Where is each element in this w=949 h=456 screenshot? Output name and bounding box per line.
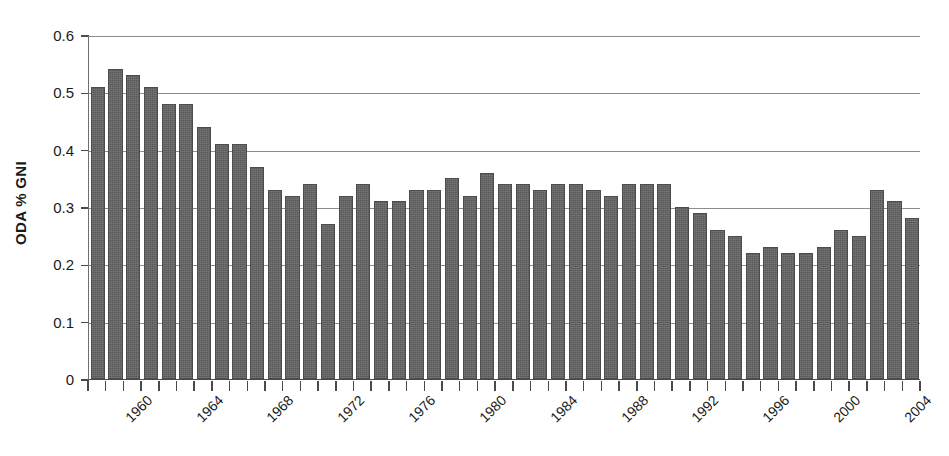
bar bbox=[622, 184, 636, 379]
bar bbox=[569, 184, 583, 379]
bar bbox=[746, 253, 760, 379]
bar bbox=[657, 184, 671, 379]
x-tick-mark bbox=[601, 381, 603, 391]
bar bbox=[339, 196, 353, 379]
bar bbox=[162, 104, 176, 379]
bar bbox=[799, 253, 813, 379]
x-tick-mark bbox=[353, 381, 355, 391]
bar bbox=[268, 190, 282, 379]
x-tick-label: 1960 bbox=[122, 392, 155, 425]
bar bbox=[604, 196, 618, 379]
bar bbox=[197, 127, 211, 379]
plot-area bbox=[88, 36, 920, 380]
bar bbox=[126, 75, 140, 379]
bar bbox=[905, 218, 919, 379]
bar bbox=[480, 173, 494, 379]
bar bbox=[693, 213, 707, 379]
x-tick-mark bbox=[583, 381, 585, 391]
x-tick-label: 1988 bbox=[618, 392, 651, 425]
x-tick-mark bbox=[902, 381, 904, 391]
x-tick-mark bbox=[477, 381, 479, 391]
x-tick-mark bbox=[300, 381, 302, 391]
x-tick-mark bbox=[247, 381, 249, 391]
bar bbox=[852, 236, 866, 379]
x-tick-label: 1964 bbox=[193, 392, 226, 425]
x-tick-mark bbox=[689, 381, 691, 391]
y-tick-label: 0 bbox=[14, 371, 74, 388]
bar bbox=[321, 224, 335, 379]
x-tick-mark bbox=[919, 381, 921, 391]
x-tick-mark bbox=[211, 381, 213, 391]
x-tick-label: 1976 bbox=[405, 392, 438, 425]
x-tick-label: 2000 bbox=[830, 392, 863, 425]
y-tick-label: 0.3 bbox=[14, 199, 74, 216]
x-tick-mark bbox=[725, 381, 727, 391]
x-tick-mark bbox=[795, 381, 797, 391]
bar bbox=[781, 253, 795, 379]
x-tick-label: 1996 bbox=[759, 392, 792, 425]
x-tick-mark bbox=[229, 381, 231, 391]
x-tick-mark bbox=[87, 381, 89, 391]
x-tick-mark bbox=[388, 381, 390, 391]
bar bbox=[870, 190, 884, 379]
x-tick-mark bbox=[459, 381, 461, 391]
x-tick-label: 1984 bbox=[547, 392, 580, 425]
bar bbox=[586, 190, 600, 379]
x-tick-mark bbox=[866, 381, 868, 391]
bar bbox=[551, 184, 565, 379]
bar bbox=[427, 190, 441, 379]
bar-series bbox=[89, 36, 920, 379]
bar bbox=[215, 144, 229, 379]
bar bbox=[710, 230, 724, 379]
x-tick-mark bbox=[548, 381, 550, 391]
bar bbox=[516, 184, 530, 379]
bar bbox=[409, 190, 423, 379]
x-tick-mark bbox=[636, 381, 638, 391]
x-tick-label: 1992 bbox=[688, 392, 721, 425]
x-tick-mark bbox=[884, 381, 886, 391]
x-tick-mark bbox=[848, 381, 850, 391]
bar bbox=[303, 184, 317, 379]
x-tick-mark bbox=[282, 381, 284, 391]
x-tick-mark bbox=[618, 381, 620, 391]
x-tick-mark bbox=[140, 381, 142, 391]
bar bbox=[144, 87, 158, 379]
bar bbox=[887, 201, 901, 379]
x-tick-mark bbox=[707, 381, 709, 391]
x-tick-mark bbox=[530, 381, 532, 391]
bar bbox=[445, 178, 459, 379]
x-tick-label: 1980 bbox=[476, 392, 509, 425]
bar bbox=[817, 247, 831, 379]
x-tick-mark bbox=[831, 381, 833, 391]
x-tick-mark bbox=[512, 381, 514, 391]
x-tick-mark bbox=[813, 381, 815, 391]
bar bbox=[91, 87, 105, 379]
bar bbox=[179, 104, 193, 379]
x-tick-mark bbox=[176, 381, 178, 391]
bar bbox=[498, 184, 512, 379]
bar bbox=[232, 144, 246, 379]
bar bbox=[533, 190, 547, 379]
bar bbox=[392, 201, 406, 379]
y-tick-label: 0.6 bbox=[14, 27, 74, 44]
x-tick-mark bbox=[370, 381, 372, 391]
x-axis-labels: 1960196419681972197619801984198819921996… bbox=[88, 392, 920, 456]
bar bbox=[374, 201, 388, 379]
x-tick-mark bbox=[424, 381, 426, 391]
x-tick-label: 2004 bbox=[901, 392, 934, 425]
bar bbox=[763, 247, 777, 379]
x-tick-mark bbox=[671, 381, 673, 391]
x-tick-mark bbox=[158, 381, 160, 391]
bar bbox=[285, 196, 299, 379]
x-tick-label: 1968 bbox=[264, 392, 297, 425]
y-tick-label: 0.2 bbox=[14, 256, 74, 273]
x-tick-mark bbox=[123, 381, 125, 391]
bar bbox=[728, 236, 742, 379]
bar bbox=[675, 207, 689, 379]
bar bbox=[640, 184, 654, 379]
y-tick-label: 0.5 bbox=[14, 84, 74, 101]
x-tick-label: 1972 bbox=[334, 392, 367, 425]
bar bbox=[463, 196, 477, 379]
x-tick-mark bbox=[105, 381, 107, 391]
bar bbox=[108, 69, 122, 379]
